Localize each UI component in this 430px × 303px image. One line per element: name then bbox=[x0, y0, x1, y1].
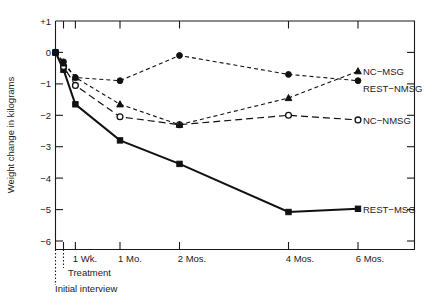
data-point bbox=[355, 68, 362, 74]
x-tick-label: 1 Mo. bbox=[118, 253, 142, 264]
series-label-nc-msg: NC−MSG bbox=[363, 66, 404, 77]
axis-left-bottom bbox=[56, 21, 416, 250]
x-tick-labels: 1 Wk. 1 Mo. 2 Mos. 4 Mos. 6 Mos. bbox=[73, 253, 384, 264]
data-point bbox=[355, 206, 360, 211]
chart-canvas: +1 0 −1 −2 −3 −4 −5 −6 Weight change in … bbox=[0, 0, 430, 303]
data-point bbox=[177, 53, 183, 59]
series-label-nc-nmsg: NC−NMSG bbox=[363, 115, 411, 126]
data-point bbox=[177, 161, 182, 166]
series-line-nc-msg bbox=[56, 52, 359, 124]
series-line-nc-nmsg bbox=[56, 52, 359, 124]
data-point bbox=[73, 102, 78, 107]
plot-frame bbox=[56, 21, 416, 250]
data-point bbox=[286, 72, 292, 78]
data-point bbox=[355, 117, 361, 123]
x-tick-label: 6 Mos. bbox=[356, 253, 385, 264]
series-nc-nmsg: NC−NMSG bbox=[53, 50, 411, 128]
series-rest-msg: REST−MSG bbox=[53, 50, 416, 215]
y-tick-label: −1 bbox=[40, 78, 51, 89]
data-point bbox=[286, 112, 292, 118]
data-point bbox=[355, 78, 361, 84]
data-point bbox=[117, 138, 122, 143]
initial-interview-annotation: Initial interview bbox=[55, 283, 117, 294]
y-tick-label: −5 bbox=[40, 204, 51, 215]
x-tick-label: 1 Wk. bbox=[73, 253, 97, 264]
weight-change-line-chart: +1 0 −1 −2 −3 −4 −5 −6 Weight change in … bbox=[0, 0, 430, 303]
data-point bbox=[117, 101, 124, 107]
y-tick-label: −3 bbox=[40, 141, 51, 152]
data-point bbox=[286, 209, 291, 214]
series-line-rest-nmsg bbox=[56, 52, 359, 80]
x-tick-label: 4 Mos. bbox=[286, 253, 315, 264]
data-point bbox=[117, 78, 123, 84]
y-tick-label: −6 bbox=[40, 236, 51, 247]
y-tick-label: 0 bbox=[46, 47, 51, 58]
y-tick-labels: +1 0 −1 −2 −3 −4 −5 −6 bbox=[40, 16, 51, 247]
y-tick-label: +1 bbox=[40, 16, 51, 27]
x-tick-label: 2 Mos. bbox=[178, 253, 207, 264]
data-point bbox=[117, 114, 123, 120]
annotation-guides bbox=[56, 250, 64, 286]
treatment-annotation: Treatment bbox=[68, 267, 111, 278]
y-tick-label: −4 bbox=[40, 173, 51, 184]
y-tick-label: −2 bbox=[40, 110, 51, 121]
y-axis-title: Weight change in kilograms bbox=[5, 76, 16, 193]
y-tick-marks bbox=[56, 52, 64, 241]
series-label-rest-nmsg: REST−NMSG bbox=[363, 83, 422, 94]
data-point bbox=[73, 83, 79, 89]
x-tick-marks bbox=[64, 21, 359, 250]
series-label-rest-msg: REST−MSG bbox=[363, 204, 416, 215]
series-nc-msg: NC−MSG bbox=[52, 49, 404, 127]
